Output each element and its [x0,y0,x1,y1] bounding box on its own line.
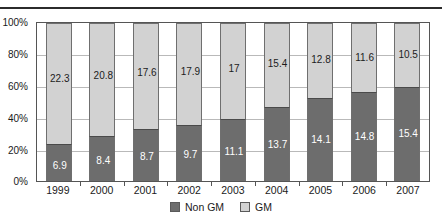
bar-segment-non-gm[interactable]: 11.1 [220,119,246,181]
bar-segment-gm[interactable]: 12.8 [307,23,333,98]
x-axis-label: 2004 [257,182,297,202]
y-axis-label-80: 80% [0,50,28,60]
bar-column[interactable]: 17.99.7 [176,23,202,181]
bar-segment-gm[interactable]: 17.9 [176,23,202,125]
bar-segment-non-gm[interactable]: 6.9 [46,144,72,181]
bar-value-label-gm: 17 [215,64,253,74]
bar-column[interactable]: 22.36.9 [46,23,72,181]
bar-column[interactable]: 12.814.1 [307,23,333,181]
bar-value-label-gm: 12.8 [302,55,340,65]
x-axis-label: 2000 [82,182,122,202]
y-axis-label-100: 100% [0,18,28,28]
legend-item-non-gm[interactable]: Non GM [170,201,224,213]
bar-value-label-gm: 17.6 [128,68,166,78]
bar-value-label-gm: 15.4 [259,59,297,69]
legend-swatch-gm [240,202,250,212]
x-axis: 199920002001200220032004200520062007 [36,182,430,202]
x-axis-label: 1999 [38,182,78,202]
x-axis-tick [211,182,212,186]
cropped-caption [0,0,442,6]
bar-value-label-non-gm: 8.7 [128,152,166,162]
legend-label-non-gm: Non GM [185,201,224,213]
horizontal-rule [0,7,442,9]
bar-column[interactable]: 10.515.4 [394,23,420,181]
bar-segment-gm[interactable]: 22.3 [46,23,72,144]
legend-swatch-non-gm [170,202,180,212]
plot-area: 22.36.920.88.417.68.717.99.71711.115.413… [36,22,430,182]
bar-value-label-non-gm: 9.7 [171,150,209,160]
stacked-bar-chart: 100% 80% 60% 40% 20% 0% 22.36.920.88.417… [0,0,442,223]
bar-segment-non-gm[interactable]: 14.1 [307,98,333,181]
bar-value-label-non-gm: 11.1 [215,147,253,157]
bar-segment-gm[interactable]: 15.4 [264,23,290,107]
bar-segment-non-gm[interactable]: 8.7 [133,129,159,181]
bar-segment-gm[interactable]: 17.6 [133,23,159,129]
bar-segment-gm[interactable]: 20.8 [89,23,115,136]
bar-segment-gm[interactable]: 17 [220,23,246,119]
bar-value-label-non-gm: 14.8 [346,132,384,142]
bar-segment-gm[interactable]: 11.6 [351,23,377,92]
bar-value-label-non-gm: 15.4 [389,129,427,139]
y-axis-label-20: 20% [0,146,28,156]
y-axis-label-60: 60% [0,82,28,92]
bar-value-label-non-gm: 13.7 [259,140,297,150]
x-axis-label: 2002 [169,182,209,202]
bar-value-label-non-gm: 8.4 [84,156,122,166]
x-axis-label: 2006 [344,182,384,202]
bar-segment-gm[interactable]: 10.5 [394,23,420,87]
bar-segment-non-gm[interactable]: 15.4 [394,87,420,181]
x-axis-label: 2003 [213,182,253,202]
bar-value-label-non-gm: 6.9 [41,161,79,171]
x-axis-label: 2005 [300,182,340,202]
x-axis-tick [342,182,343,186]
bar-value-label-non-gm: 14.1 [302,135,340,145]
bar-value-label-gm: 20.8 [84,71,122,81]
x-axis-label: 2007 [388,182,428,202]
bar-segment-non-gm[interactable]: 9.7 [176,125,202,181]
bar-column[interactable]: 1711.1 [220,23,246,181]
bar-value-label-gm: 10.5 [389,50,427,60]
bar-segment-non-gm[interactable]: 14.8 [351,92,377,181]
bar-value-label-gm: 17.9 [171,67,209,77]
x-axis-tick [167,182,168,186]
bar-segment-non-gm[interactable]: 8.4 [89,136,115,181]
bar-value-label-gm: 22.3 [41,74,79,84]
bar-column[interactable]: 20.88.4 [89,23,115,181]
bar-segment-non-gm[interactable]: 13.7 [264,107,290,181]
y-axis-label-40: 40% [0,114,28,124]
bar-column[interactable]: 11.614.8 [351,23,377,181]
y-axis-label-0: 0% [0,177,28,187]
bars-group: 22.36.920.88.417.68.717.99.71711.115.413… [37,23,429,181]
x-axis-tick [386,182,387,186]
legend-item-gm[interactable]: GM [240,201,272,213]
bar-column[interactable]: 17.68.7 [133,23,159,181]
x-axis-tick [299,182,300,186]
bar-column[interactable]: 15.413.7 [264,23,290,181]
x-axis-tick [255,182,256,186]
bar-value-label-gm: 11.6 [346,53,384,63]
x-axis-label: 2001 [125,182,165,202]
x-axis-tick [124,182,125,186]
x-axis-tick [80,182,81,186]
legend-label-gm: GM [255,201,272,213]
legend: Non GM GM [0,201,442,213]
